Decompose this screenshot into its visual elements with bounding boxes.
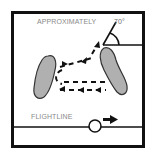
arrow-left-icon [95, 87, 101, 93]
right-obstacle [100, 48, 127, 95]
arrow-right-icon [62, 61, 68, 67]
approx-label: APPROXIMATELY [37, 18, 96, 25]
ball [89, 120, 101, 132]
left-obstacle [34, 56, 56, 99]
angle-label: 70° [114, 18, 125, 25]
arrow-up-icon [94, 41, 100, 48]
flightline-label: FLIGHTLINE [31, 113, 72, 120]
direction-arrow-icon [103, 115, 118, 124]
arrow-left-icon [59, 86, 65, 92]
arrow-left-icon [78, 87, 84, 93]
angle-marker [103, 22, 143, 45]
path-arrowheads [59, 41, 101, 93]
